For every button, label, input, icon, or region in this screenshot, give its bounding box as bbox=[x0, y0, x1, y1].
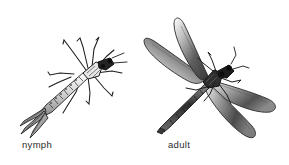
nymph-abdomen bbox=[41, 72, 88, 115]
adult-head bbox=[218, 47, 249, 78]
nymph-label: nymph bbox=[22, 139, 52, 150]
nymph-illustration bbox=[20, 37, 127, 138]
damselfly-life-stages-figure: nymph adult bbox=[0, 0, 289, 165]
adult-label: adult bbox=[168, 139, 190, 150]
nymph-head bbox=[98, 53, 127, 70]
adult-illustration bbox=[144, 18, 275, 138]
nymph-caudal-gills bbox=[20, 108, 48, 138]
adult-abdomen bbox=[157, 84, 209, 134]
